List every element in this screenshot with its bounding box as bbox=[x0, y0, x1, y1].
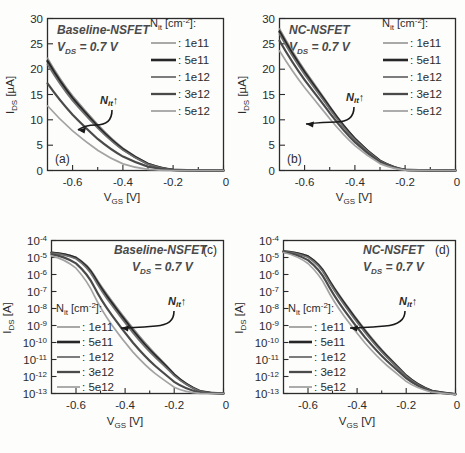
panel-b-xtick-3: -0.2 bbox=[395, 176, 415, 188]
panel-a-xtick-1: -0.6 bbox=[63, 176, 83, 188]
panel-b-device-label: NC-NSFET bbox=[289, 23, 351, 37]
svg-text:VDS = 0.7 V: VDS = 0.7 V bbox=[57, 40, 119, 56]
panel-b-plot: 0 5 10 15 20 25 30 -0.6 -0.4 -0.2 0 VGS … bbox=[233, 0, 465, 226]
panel-d-legend: Nit [cm-2]: : 1e11 : 5e11 : 1e12 : 3e12 bbox=[288, 301, 346, 393]
panel-c-y-ticks bbox=[52, 241, 57, 394]
panel-a-xtick-4: 0 bbox=[223, 176, 229, 188]
panel-d-bias-label: VDS = 0.7 V bbox=[363, 260, 425, 276]
panel-a-baseline-linear: 0 5 10 15 20 25 30 -0.6 -0.4 -0.2 0 VGS … bbox=[0, 0, 233, 226]
legend-row: : 1e11 bbox=[383, 37, 441, 49]
svg-text:10-10: 10-10 bbox=[255, 336, 280, 349]
panel-b-x-axis-title: VGS [V] bbox=[336, 191, 373, 206]
panel-b-ytick-15: 15 bbox=[262, 89, 275, 101]
svg-text:IDS [µA]: IDS [µA] bbox=[236, 76, 251, 114]
panel-a-xtick-3: -0.2 bbox=[163, 176, 183, 188]
legend-row: : 5e11 bbox=[383, 54, 441, 66]
legend-label-1e12: : 1e12 bbox=[82, 351, 114, 363]
svg-text:VDS = 0.7 V: VDS = 0.7 V bbox=[289, 40, 351, 56]
legend-row: : 1e12 bbox=[57, 351, 114, 363]
svg-text:VDS = 0.7 V: VDS = 0.7 V bbox=[132, 260, 194, 276]
panel-d-legend-title: Nit [cm-2]: bbox=[288, 301, 334, 317]
panel-a-ytick-0: 0 bbox=[37, 165, 43, 177]
svg-text:10-10: 10-10 bbox=[23, 336, 48, 349]
svg-text:10-4: 10-4 bbox=[259, 234, 279, 247]
legend-row: : 5e12 bbox=[57, 381, 114, 393]
legend-label-5e12: : 5e12 bbox=[82, 381, 114, 393]
svg-text:10-6: 10-6 bbox=[27, 268, 47, 281]
legend-row: : 1e12 bbox=[289, 351, 346, 363]
legend-label-1e12: : 1e12 bbox=[314, 351, 346, 363]
legend-row: : 5e12 bbox=[151, 105, 210, 117]
panel-b-id: (b) bbox=[287, 152, 302, 166]
panel-a-ytick-15: 15 bbox=[30, 89, 43, 101]
legend-row: : 3e12 bbox=[151, 88, 210, 100]
legend-row: : 1e11 bbox=[151, 37, 209, 49]
svg-text:VGS [V]: VGS [V] bbox=[104, 191, 141, 206]
legend-row: : 5e12 bbox=[289, 381, 346, 393]
legend-row: : 5e11 bbox=[151, 54, 209, 66]
panel-c-baseline-log: 10-4 10-5 10-6 10-7 10-8 10-9 10-10 10-1… bbox=[0, 226, 233, 453]
panel-c-legend-title: Nit [cm-2]: bbox=[56, 301, 102, 317]
panel-a-id: (a) bbox=[55, 152, 70, 166]
svg-text:IDS [A]: IDS [A] bbox=[233, 302, 248, 334]
panel-a-bias-label: VDS = 0.7 V bbox=[57, 40, 119, 56]
svg-text:10-9: 10-9 bbox=[259, 319, 279, 332]
legend-row: : 5e11 bbox=[289, 336, 345, 348]
legend-label-5e11: : 5e11 bbox=[178, 54, 209, 66]
panel-a-xtick-2: -0.4 bbox=[113, 176, 133, 188]
legend-label-5e11: : 5e11 bbox=[314, 336, 345, 348]
svg-text:10-5: 10-5 bbox=[27, 251, 47, 264]
panel-c-y-tick-labels: 10-4 10-5 10-6 10-7 10-8 10-9 10-10 10-1… bbox=[23, 234, 48, 400]
panel-b-legend-title: Nit [cm-2]: bbox=[382, 16, 428, 32]
panel-b-nc-linear: 0 5 10 15 20 25 30 -0.6 -0.4 -0.2 0 VGS … bbox=[233, 0, 465, 226]
panel-c-bias-label: VDS = 0.7 V bbox=[132, 260, 194, 276]
legend-row: : 5e11 bbox=[57, 336, 113, 348]
panel-a-ytick-10: 10 bbox=[30, 114, 43, 126]
legend-label-1e11: : 1e11 bbox=[314, 321, 345, 333]
svg-text:10-5: 10-5 bbox=[259, 251, 279, 264]
panel-b-ytick-30: 30 bbox=[262, 13, 275, 25]
svg-text:10-12: 10-12 bbox=[255, 370, 280, 383]
legend-label-1e12: : 1e12 bbox=[410, 71, 442, 83]
panel-d-id: (d) bbox=[435, 243, 450, 257]
legend-row: : 1e12 bbox=[151, 71, 210, 83]
panel-d-y-tick-labels: 10-4 10-5 10-6 10-7 10-8 10-9 10-10 10-1… bbox=[255, 234, 280, 400]
panel-a-y-ticks bbox=[48, 19, 54, 171]
panel-a-device-label: Baseline-NSFET bbox=[57, 23, 151, 37]
panel-c-x-axis-title: VGS [V] bbox=[107, 415, 144, 430]
legend-label-3e12: : 3e12 bbox=[82, 366, 114, 378]
legend-row: : 3e12 bbox=[57, 366, 114, 378]
legend-row: : 5e12 bbox=[383, 105, 442, 117]
panel-b-bias-label: VDS = 0.7 V bbox=[289, 40, 351, 56]
panel-d-y-ticks bbox=[284, 241, 289, 394]
panel-a-ytick-25: 25 bbox=[30, 38, 43, 50]
svg-text:10-8: 10-8 bbox=[259, 302, 279, 315]
svg-text:10-7: 10-7 bbox=[27, 285, 47, 298]
legend-row: : 1e12 bbox=[383, 71, 442, 83]
panel-d-xtick-2: -0.4 bbox=[347, 399, 367, 411]
panel-a-ytick-30: 30 bbox=[30, 13, 43, 25]
legend-label-3e12: : 3e12 bbox=[410, 88, 442, 100]
svg-text:IDS [A]: IDS [A] bbox=[1, 302, 16, 334]
panel-b-ytick-10: 10 bbox=[262, 114, 275, 126]
figure-transfer-characteristics: 0 5 10 15 20 25 30 -0.6 -0.4 -0.2 0 VGS … bbox=[0, 0, 465, 453]
panel-b-ytick-0: 0 bbox=[269, 165, 275, 177]
panel-c-xtick-3: -0.2 bbox=[164, 399, 184, 411]
legend-label-5e12: : 5e12 bbox=[178, 105, 210, 117]
legend-label-5e11: : 5e11 bbox=[410, 54, 441, 66]
svg-text:Nit↑: Nit↑ bbox=[100, 94, 118, 108]
svg-text:10-7: 10-7 bbox=[259, 285, 279, 298]
legend-row: : 1e11 bbox=[289, 321, 345, 333]
legend-row: : 1e11 bbox=[57, 321, 113, 333]
legend-label-1e11: : 1e11 bbox=[82, 321, 113, 333]
panel-a-y-axis-title: IDS [µA] bbox=[4, 76, 19, 114]
panel-b-xtick-4: 0 bbox=[454, 176, 460, 188]
legend-label-1e11: : 1e11 bbox=[410, 37, 441, 49]
panel-a-ytick-20: 20 bbox=[30, 63, 43, 75]
svg-text:VGS [V]: VGS [V] bbox=[107, 415, 144, 430]
panel-d-xtick-4: 0 bbox=[454, 399, 460, 411]
svg-text:VGS [V]: VGS [V] bbox=[336, 191, 373, 206]
panel-a-plot: 0 5 10 15 20 25 30 -0.6 -0.4 -0.2 0 VGS … bbox=[0, 0, 233, 226]
svg-text:10-8: 10-8 bbox=[27, 302, 47, 315]
svg-text:10-13: 10-13 bbox=[255, 387, 280, 400]
